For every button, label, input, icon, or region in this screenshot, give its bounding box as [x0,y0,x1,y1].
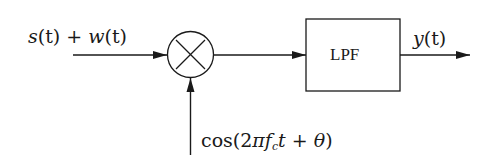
label-c-subscript: c [272,140,278,153]
lpf-label: LPF [330,46,359,63]
label-plus: + [286,129,314,151]
label-w: w [88,25,104,47]
label-theta: θ [314,129,325,151]
mixer-node [168,32,214,78]
label-t: (t) [105,25,127,47]
label-close-paren: ) [325,129,332,151]
label-t: (t) [424,27,446,49]
label-pi: π [252,129,265,151]
label-y: y [413,27,424,49]
input-signal-label: s(t) + w(t) [28,27,127,46]
label-t-plus: (t) + [38,25,88,47]
output-signal-label: y(t) [413,29,446,48]
local-oscillator-label: cos(2πfct + θ) [201,131,333,150]
label-t: t [278,129,286,151]
label-s: s [28,25,38,47]
label-f: f [265,129,272,151]
label-cos: cos(2 [201,129,252,151]
